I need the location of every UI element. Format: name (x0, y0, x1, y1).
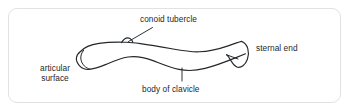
clavicle-superior-border (81, 41, 242, 51)
label-articular-surface-line2: surface (28, 74, 82, 84)
label-sternal-end: sternal end (256, 44, 298, 54)
label-conoid-tubercle: conoid tubercle (140, 15, 197, 25)
conoid-tubercle-leader-line (129, 28, 153, 42)
label-body-of-clavicle: body of clavicle (142, 85, 200, 95)
clavicle-diagram-figure: conoid tubercle sternal end articular su… (0, 0, 350, 111)
acromial-facet-rim (81, 50, 90, 69)
clavicle-inferior-border (88, 54, 246, 71)
label-articular-surface: articular surface (28, 64, 82, 83)
